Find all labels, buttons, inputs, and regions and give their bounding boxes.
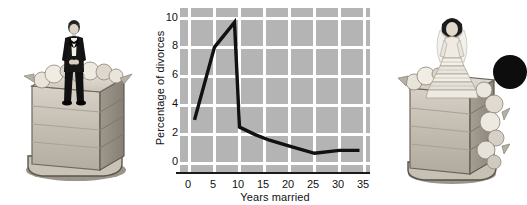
groom-cake-illustration <box>12 14 142 192</box>
x-tick-label: 5 <box>201 178 225 190</box>
bride-cake-image <box>398 12 510 194</box>
plot-wrapper: 0 2 4 6 8 10 0 5 10 15 20 25 30 35 Years… <box>168 6 370 202</box>
x-axis-title: Years married <box>180 191 370 203</box>
bride-cake-illustration <box>398 12 510 194</box>
y-axis-title: Percentage of divorces <box>154 8 168 168</box>
edge-bullet-dot <box>493 55 527 89</box>
divorce-rate-chart: Percentage of divorces <box>152 6 370 202</box>
data-series-line <box>180 8 370 172</box>
cake-side-face <box>100 78 124 170</box>
y-tick-label: 6 <box>160 69 178 79</box>
bride-figurine <box>426 18 478 98</box>
x-tick-label: 20 <box>276 178 300 190</box>
x-tick-label: 25 <box>301 178 325 190</box>
cake-flowers-cascade <box>476 82 510 169</box>
x-tick-label: 15 <box>251 178 275 190</box>
y-tick-label: 2 <box>160 127 178 137</box>
groom-cake-image <box>12 14 142 192</box>
x-tick-label: 30 <box>326 178 350 190</box>
y-tick-label: 4 <box>160 98 178 108</box>
divorce-percentage-polyline <box>195 22 360 153</box>
y-tick-label: 0 <box>160 156 178 166</box>
x-tick-label: 35 <box>351 178 375 190</box>
x-tick-label: 0 <box>176 178 200 190</box>
x-axis-line <box>176 172 370 174</box>
x-tick-label: 10 <box>226 178 250 190</box>
y-tick-label: 8 <box>160 40 178 50</box>
y-tick-label: 10 <box>160 12 178 22</box>
